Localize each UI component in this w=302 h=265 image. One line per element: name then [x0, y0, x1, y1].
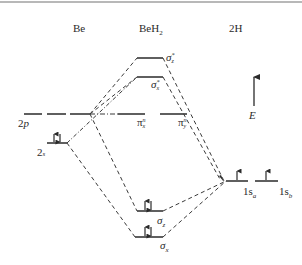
column-label-beh2: BeH2 [139, 23, 163, 37]
label-pi-x-n: πnx [137, 117, 146, 129]
label-1sb: 1sb [279, 186, 292, 200]
energy-axis-label: E [249, 110, 256, 121]
mo-diagram [0, 0, 302, 265]
label-2s: 2s [37, 147, 45, 158]
label-sigma-x-star: σ*x [151, 79, 159, 91]
label-2p: 2p [18, 118, 29, 129]
label-sigma-x: σx [160, 240, 169, 254]
label-pi-y-n: πny [178, 117, 187, 129]
label-1sa: 1sa [243, 186, 256, 200]
label-sigma-z: σz [157, 215, 165, 229]
label-sigma-z-star: σ*z [166, 52, 174, 64]
column-label-2h: 2H [229, 23, 242, 34]
column-label-be: Be [73, 23, 85, 34]
